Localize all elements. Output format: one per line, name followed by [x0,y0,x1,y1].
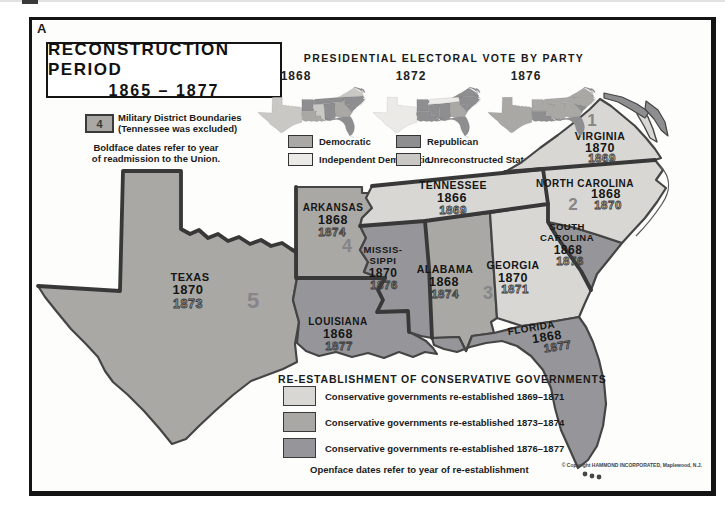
district-number-4: 4 [342,236,352,256]
south-carolina-label-1: SOUTH [549,221,585,232]
tennessee-reestablished: 1869 [439,204,467,216]
mississippi-label-1: MISSIS- [364,244,403,255]
conservative-legend-item-2: Conservative governments re-established … [283,412,564,432]
mississippi-label-2: SIPPI [370,255,397,266]
conservative-swatch-1869-1871 [283,386,316,406]
alabama-readmitted: 1868 [429,275,459,289]
mm1872-texas [373,97,417,132]
conservative-swatch-1876-1877 [283,438,316,458]
alabama-label: ALABAMA [417,263,474,275]
louisiana-label: LOUISIANA [308,316,368,327]
tennessee-label: TENNESSEE [419,179,487,191]
conservative-legend-item-1: Conservative governments re-established … [283,386,564,406]
mississippi-readmitted: 1870 [369,266,398,280]
conservative-swatch-1873-1874 [283,412,316,432]
minimap-1872 [373,87,480,137]
arkansas-label: ARKANSAS [303,202,364,213]
virginia-reestablished: 1869 [588,152,616,164]
mm1876-texas [488,97,532,132]
conservative-label-1873-1874: Conservative governments re-established … [325,417,564,428]
copyright-notice: © Copyright HAMMOND INCORPORATED, Maplew… [540,462,702,468]
texas-readmitted: 1870 [173,282,204,297]
louisiana-reestablished: 1877 [325,340,353,352]
district-number-3: 3 [483,283,493,303]
mm1872-alabama [439,103,451,121]
state-texas [38,171,299,444]
arkansas-readmitted: 1868 [318,213,348,227]
texas-reestablished: 1873 [173,297,203,311]
openface-note: Openface dates refer to year of re-estab… [310,464,529,475]
conservative-label-1876-1877: Conservative governments re-established … [325,443,564,454]
alabama-reestablished: 1874 [431,288,459,300]
tennessee-readmitted: 1866 [437,191,467,205]
louisiana-readmitted: 1868 [323,327,353,341]
district-number-5: 5 [247,288,259,313]
mm1876-alabama [554,103,566,121]
south-carolina-label-2: CAROLINA [540,232,594,243]
mm1868-texas [258,97,302,132]
georgia-label: GEORGIA [486,259,539,271]
north-carolina-reestablished: 1870 [594,199,622,211]
minimap-1876 [488,87,595,137]
minimap-1868 [258,87,365,137]
mississippi-reestablished: 1876 [370,279,398,291]
district-number-2: 2 [568,195,577,214]
conservative-legend-item-3: Conservative governments re-established … [283,438,564,458]
mm1868-alabama [324,103,336,121]
mm1868-florida [325,116,355,136]
conservative-label-1869-1871: Conservative governments re-established … [325,391,564,402]
district-number-1: 1 [587,111,596,130]
south-carolina-reestablished: 1876 [556,255,584,267]
mm1872-florida [440,116,470,136]
map-page: A RECONSTRUCTION PERIOD 1865 – 1877 PRES… [0,0,725,516]
conservative-legend-heading: RE-ESTABLISHMENT OF CONSERVATIVE GOVERNM… [278,373,606,385]
georgia-reestablished: 1871 [501,283,529,295]
